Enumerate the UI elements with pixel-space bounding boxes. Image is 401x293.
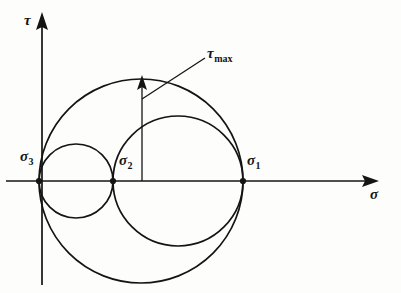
tau-max-label: τmax (207, 45, 232, 61)
node-sigma2 (110, 178, 116, 184)
tau-axis-label: τ (24, 12, 31, 28)
tau-axis-label-text: τ (24, 12, 31, 28)
sigma2-label-base: σ (119, 152, 127, 168)
sigma2-label-subscript: 2 (128, 160, 133, 171)
sigma1-label: σ1 (247, 152, 260, 168)
sigma1-label-subscript: 1 (256, 160, 261, 171)
node-sigma1 (240, 178, 246, 184)
sigma3-label-subscript: 3 (29, 156, 34, 167)
mohr-circle-canvas (0, 0, 401, 293)
sigma2-label: σ2 (119, 152, 132, 168)
tau-max-label-subscript: max (214, 53, 232, 64)
node-sigma3 (36, 178, 42, 184)
sigma-axis-label-text: σ (370, 186, 378, 202)
sigma-axis-label: σ (370, 186, 378, 202)
sigma1-label-base: σ (247, 152, 255, 168)
sigma3-label: σ3 (20, 148, 33, 164)
mohr-circle-figure: τ σ σ3 σ2 σ1 τmax (0, 0, 401, 293)
tau-max-leader-line (142, 58, 205, 99)
sigma3-label-base: σ (20, 148, 28, 164)
tau-max-label-base: τ (207, 45, 214, 61)
